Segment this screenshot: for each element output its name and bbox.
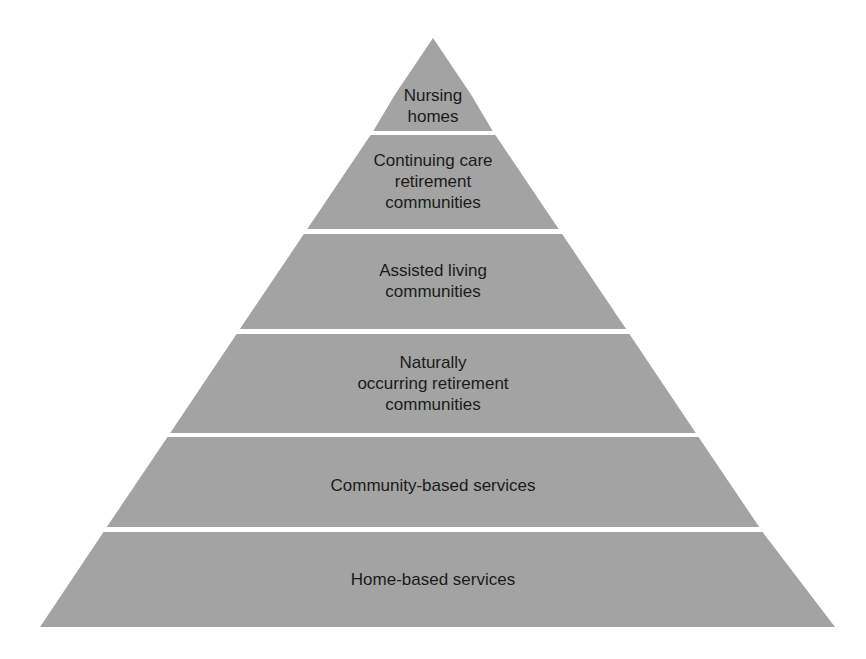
- label-assisted-living: Assisted living communities: [379, 260, 487, 302]
- label-community-based: Community-based services: [330, 475, 535, 496]
- label-continuing-care: Continuing care retirement communities: [373, 150, 492, 213]
- label-home-based: Home-based services: [351, 569, 515, 590]
- label-nursing-homes: Nursing homes: [404, 85, 463, 127]
- label-norc: Naturally occurring retirement communiti…: [357, 352, 508, 415]
